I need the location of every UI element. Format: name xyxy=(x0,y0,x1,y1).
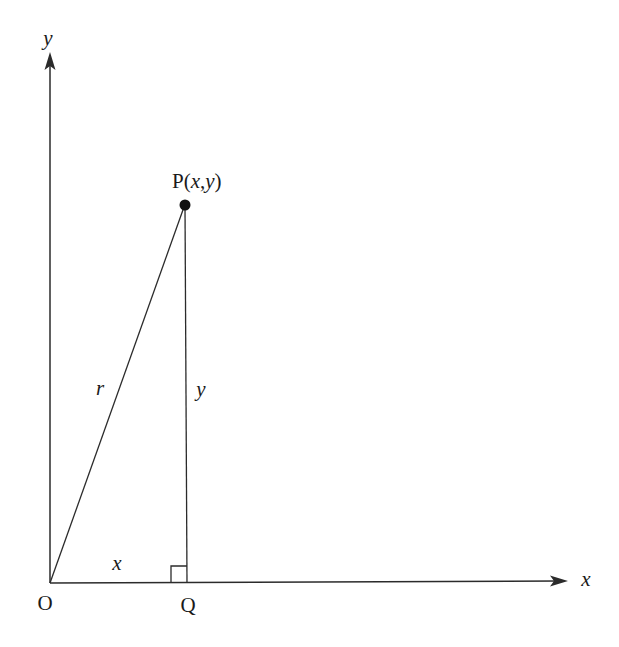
coordinate-diagram-svg: y x P(x,y) O Q r y x xyxy=(0,0,619,647)
x-axis-label: x xyxy=(580,567,591,591)
segment-vertical-leg-y xyxy=(185,206,187,583)
point-o-label: O xyxy=(37,591,52,615)
segment-label-x: x xyxy=(111,551,122,575)
point-p-label: P(x,y) xyxy=(172,169,222,193)
point-p-dot xyxy=(180,200,191,211)
right-angle-marker-icon xyxy=(171,566,187,582)
point-p-label-prefix: P( xyxy=(172,169,191,193)
y-axis-label: y xyxy=(41,26,53,50)
segment-label-y: y xyxy=(194,377,206,401)
segment-label-r: r xyxy=(96,376,105,400)
svg-text:P(x,y): P(x,y) xyxy=(172,169,222,193)
point-q-label: Q xyxy=(180,593,195,617)
point-p-label-suffix: ) xyxy=(215,169,222,193)
diagram-canvas: y x P(x,y) O Q r y x xyxy=(0,0,619,647)
x-axis-line xyxy=(50,581,558,583)
segment-hypotenuse-r xyxy=(50,207,184,583)
point-p-label-y: y xyxy=(203,169,215,193)
